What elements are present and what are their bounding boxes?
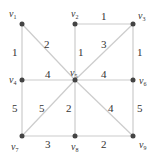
vertex-v9 bbox=[131, 134, 136, 139]
vertex-v6 bbox=[131, 78, 136, 83]
weight-v3-v5: 3 bbox=[101, 38, 107, 50]
label-v5: v5 bbox=[70, 67, 77, 79]
weight-v3-v6: 1 bbox=[137, 46, 143, 58]
vertex-v8 bbox=[73, 134, 78, 139]
label-v6: v6 bbox=[139, 75, 146, 87]
weight-v6-v9: 5 bbox=[137, 102, 143, 114]
vertex-v7 bbox=[20, 134, 25, 139]
vertex-v2 bbox=[73, 22, 78, 27]
vertex-v1 bbox=[20, 22, 25, 27]
weight-v5-v7: 5 bbox=[39, 102, 45, 114]
label-v2: v2 bbox=[71, 8, 78, 20]
edge-v5-v9 bbox=[75, 80, 133, 136]
weight-v1-v4: 1 bbox=[12, 46, 18, 58]
weight-v4-v5: 4 bbox=[45, 68, 51, 80]
weight-v7-v8: 3 bbox=[45, 138, 51, 150]
weight-v5-v8: 2 bbox=[66, 102, 72, 114]
weight-v4-v7: 5 bbox=[12, 102, 18, 114]
weight-v5-v6: 4 bbox=[101, 68, 107, 80]
label-v8: v8 bbox=[71, 141, 78, 153]
weight-v1-v5: 2 bbox=[44, 38, 50, 50]
label-v4: v4 bbox=[9, 74, 16, 86]
label-v7: v7 bbox=[11, 141, 18, 153]
vertex-v4 bbox=[20, 78, 25, 83]
weight-v8-v9: 2 bbox=[101, 138, 107, 150]
graph-diagram: 1 2 1 1 3 1 4 4 5 5 2 4 5 3 2 v1 v2 v3 v… bbox=[0, 0, 154, 160]
label-v3: v3 bbox=[138, 10, 145, 22]
vertex-v3 bbox=[131, 22, 136, 27]
weight-v5-v9: 4 bbox=[108, 102, 114, 114]
weight-v2-v3: 1 bbox=[101, 10, 107, 22]
weight-v2-v5: 1 bbox=[78, 46, 84, 58]
label-v9: v9 bbox=[139, 139, 146, 151]
label-v1: v1 bbox=[9, 8, 16, 20]
